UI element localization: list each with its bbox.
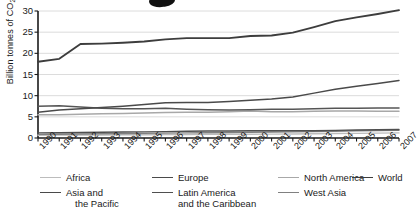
legend-swatch-line-icon [352,177,373,178]
series-line-asia-and-the-pacific [38,80,399,112]
chart-legend: AfricaAsia andthe PacificEuropeLatin Ame… [0,168,412,215]
legend-swatch-line-icon [278,192,299,193]
legend-item-europe[interactable]: Europe [152,172,209,183]
legend-label-line2: the Pacific [66,198,119,209]
legend-label: Latin Americaand the Caribbean [178,187,256,209]
legend-swatch-line-icon [152,192,173,193]
legend-swatch-line-icon [152,177,173,178]
series-line-world [38,10,399,62]
legend-swatch-line-icon [40,192,61,193]
legend-label-line2: and the Caribbean [178,198,256,209]
legend-swatch-line-icon [278,177,299,178]
legend-label: Europe [178,172,209,183]
legend-item-latin-america[interactable]: Latin Americaand the Caribbean [152,187,256,209]
legend-item-world[interactable]: World [352,172,403,183]
legend-label: West Asia [304,187,346,198]
legend-swatch-line-icon [40,177,61,178]
legend-label: Asia andthe Pacific [66,187,119,209]
legend-item-africa[interactable]: Africa [40,172,90,183]
legend-item-asia-and[interactable]: Asia andthe Pacific [40,187,119,209]
series-line-north-america [38,111,399,115]
legend-label: World [378,172,403,183]
legend-item-west-asia[interactable]: West Asia [278,187,346,198]
legend-label: Africa [66,172,90,183]
